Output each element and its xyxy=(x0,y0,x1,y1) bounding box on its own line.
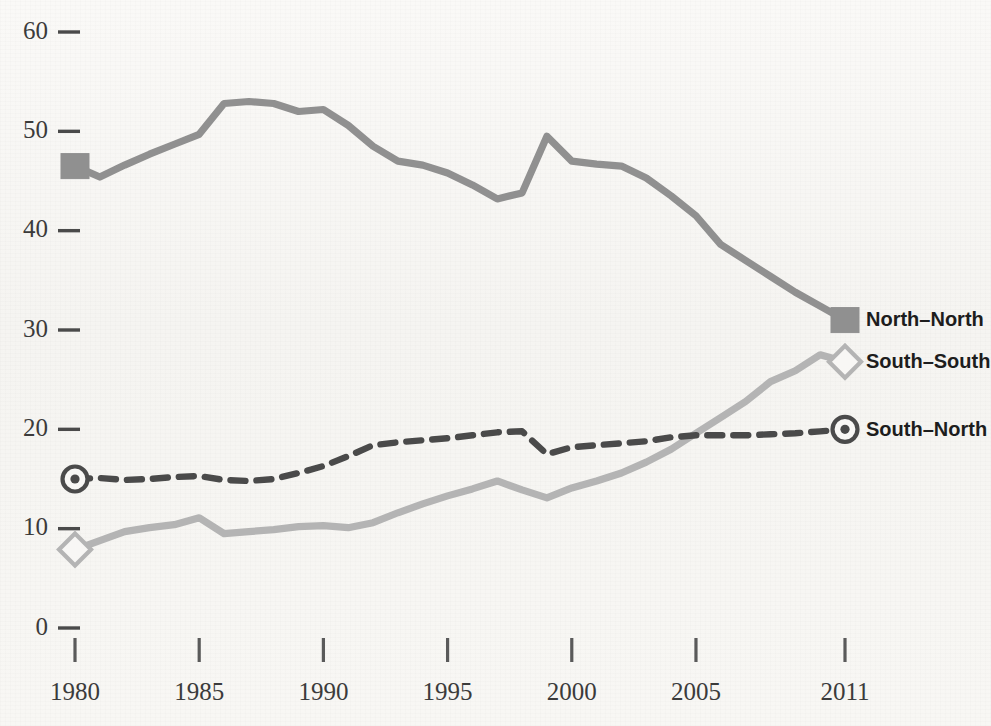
y-tick-label: 10 xyxy=(23,513,48,540)
marker-end-south-north-center xyxy=(840,425,849,434)
marker-end-south-south xyxy=(829,346,861,378)
series-line-north-north xyxy=(75,102,845,321)
x-tick-label: 1985 xyxy=(174,678,224,705)
x-tick-label: 1980 xyxy=(50,678,100,705)
series-line-south-north xyxy=(75,429,845,481)
y-tick-label: 0 xyxy=(36,613,49,640)
x-tick-label: 2011 xyxy=(820,678,869,705)
line-chart: 0102030405060 19801985199019952000200520… xyxy=(0,0,991,726)
marker-start-south-north-center xyxy=(70,474,79,483)
x-tick-label: 2000 xyxy=(547,678,597,705)
x-tick-label: 1995 xyxy=(423,678,473,705)
endpoint-markers xyxy=(59,154,861,566)
y-tick-label: 50 xyxy=(23,116,48,143)
y-tick-label: 30 xyxy=(23,315,48,342)
marker-start-north-north xyxy=(61,154,89,179)
marker-end-north-north xyxy=(831,308,859,333)
y-tick-label: 60 xyxy=(23,17,48,44)
series-lines xyxy=(75,102,845,550)
chart-legend: North–NorthSouth–SouthSouth–North xyxy=(866,308,990,439)
y-tick-label: 20 xyxy=(23,414,48,441)
y-tick-label: 40 xyxy=(23,215,48,242)
legend-label-south-north: South–North xyxy=(866,418,987,440)
marker-start-south-south xyxy=(59,534,91,566)
legend-label-south-south: South–South xyxy=(866,350,990,372)
legend-label-north-north: North–North xyxy=(866,308,984,330)
chart-canvas: 0102030405060 19801985199019952000200520… xyxy=(0,0,991,726)
series-line-south-south xyxy=(75,355,845,550)
x-tick-label: 2005 xyxy=(671,678,721,705)
x-axis-ticks: 1980198519901995200020052011 xyxy=(50,638,870,705)
x-tick-label: 1990 xyxy=(298,678,348,705)
